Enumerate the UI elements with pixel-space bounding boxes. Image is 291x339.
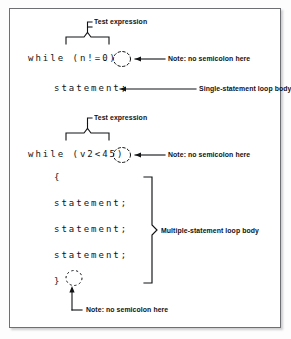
code-statement-single: statement; (54, 83, 128, 93)
callout-test-expression-2: Test expression (94, 113, 147, 122)
code-statement-2: statement; (54, 224, 128, 234)
callout-no-semicolon-3: Note: no semicolon here (86, 305, 168, 314)
callout-no-semicolon-2: Note: no semicolon here (168, 150, 250, 159)
code-while-condition-2: while (v2<45) (28, 149, 124, 159)
figure-root: Test expression while (n!=0) Note: no se… (0, 0, 291, 339)
callout-no-semicolon-1: Note: no semicolon here (168, 54, 250, 63)
code-while-condition-1: while (n!=0) (28, 53, 117, 63)
code-statement-1: statement; (54, 198, 128, 208)
code-statement-3: statement; (54, 250, 128, 260)
callout-single-statement-body: Single-statement loop body (199, 84, 291, 93)
callout-test-expression-1: Test expression (94, 17, 147, 26)
code-close-brace: } (54, 276, 61, 286)
code-open-brace: { (54, 172, 61, 182)
callout-multiple-statement-body: Multiple-statement loop body (161, 226, 259, 235)
